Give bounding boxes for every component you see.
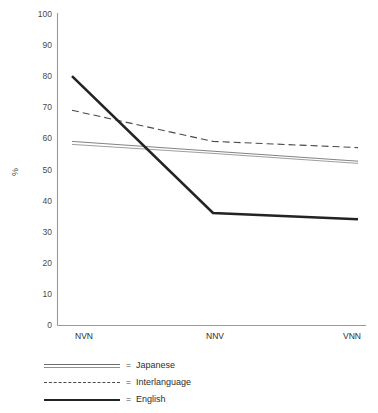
y-tick-label-20: 20	[43, 258, 53, 268]
y-tick-label-50: 50	[43, 165, 53, 175]
y-tick-label-80: 80	[43, 71, 53, 81]
chart-legend: = Japanese = Interlanguage = English	[44, 357, 344, 408]
x-category-label-nvn: NVN	[75, 331, 93, 341]
y-tick-label-70: 70	[43, 102, 53, 112]
series-line-interlanguage	[72, 110, 358, 147]
legend-item-english: = English	[44, 391, 344, 408]
legend-label-interlanguage: Interlanguage	[136, 378, 191, 387]
x-category-label-nnv: NNV	[206, 331, 224, 341]
y-tick-label-0: 0	[47, 320, 52, 330]
y-axis-title: %	[10, 168, 20, 176]
line-chart-plot: 100 90 80 70 60 50 40 30 20 10 0 % NVN N…	[0, 0, 378, 413]
y-tick-label-60: 60	[43, 133, 53, 143]
series-line-english	[72, 76, 358, 219]
legend-label-japanese: Japanese	[136, 361, 175, 370]
legend-equals-sign: =	[126, 361, 131, 370]
legend-equals-sign: =	[126, 378, 131, 387]
legend-label-english: English	[136, 395, 166, 404]
legend-swatch-japanese-icon	[44, 360, 120, 372]
legend-swatch-interlanguage-icon	[44, 377, 120, 389]
y-tick-label-40: 40	[43, 196, 53, 206]
y-tick-label-90: 90	[43, 40, 53, 50]
chart-figure: 100 90 80 70 60 50 40 30 20 10 0 % NVN N…	[0, 0, 378, 413]
y-tick-label-30: 30	[43, 227, 53, 237]
x-category-label-vnn: VNN	[343, 331, 361, 341]
legend-item-interlanguage: = Interlanguage	[44, 374, 344, 391]
legend-swatch-english-icon	[44, 394, 120, 406]
legend-equals-sign: =	[126, 395, 131, 404]
y-tick-label-100: 100	[38, 9, 52, 19]
y-tick-label-10: 10	[43, 289, 53, 299]
legend-item-japanese: = Japanese	[44, 357, 344, 374]
series-line-japanese	[72, 141, 358, 163]
